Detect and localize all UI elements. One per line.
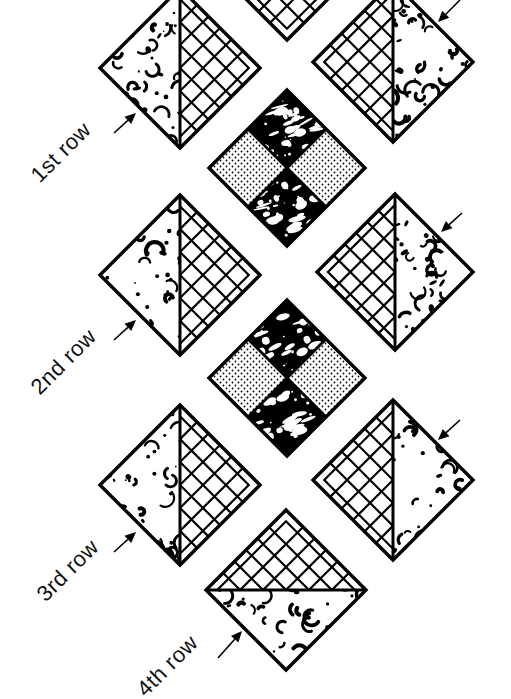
arrow-arrow-row4-icon xyxy=(218,631,242,658)
tile-right-2 xyxy=(317,190,473,353)
tile-center-2 xyxy=(209,292,365,464)
tile-bottom-4 xyxy=(206,504,374,675)
arrow-arrow-row3-icon xyxy=(114,532,136,552)
arrow-arrow-row2-icon xyxy=(114,320,136,340)
arrow-arrow-right2-icon xyxy=(441,213,462,232)
tile-center-1 xyxy=(209,82,365,254)
arrow-arrow-right1-icon xyxy=(438,0,460,22)
tile-right-1 xyxy=(312,0,473,146)
tile-left-1 xyxy=(95,0,260,148)
tile-right-3 xyxy=(309,399,477,560)
tiles-layer xyxy=(93,0,477,675)
arrow-arrow-row1-icon xyxy=(114,113,136,133)
arrow-arrow-right3-icon xyxy=(438,420,460,440)
tile-left-2 xyxy=(93,188,261,358)
